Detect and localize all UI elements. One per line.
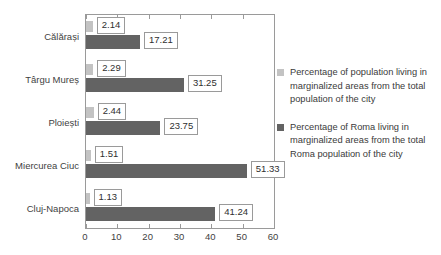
x-axis-tick-label: 10 — [111, 232, 122, 242]
y-axis-category-label: Miercurea Ciuc — [15, 161, 79, 171]
bar-roma-marginalized — [86, 121, 160, 135]
data-label-population: 2.14 — [97, 17, 126, 34]
y-axis-category-label: Ploiești — [48, 118, 79, 128]
x-axis-tick — [274, 224, 275, 228]
chart-category-row: Miercurea Ciuc1.5151.33 — [86, 144, 274, 187]
y-axis-category-label: Călărași — [44, 32, 79, 42]
chart-category-row: Târgu Mureș2.2931.25 — [86, 58, 274, 101]
data-label-roma: 23.75 — [164, 118, 198, 135]
legend-swatch-icon — [277, 69, 284, 76]
y-axis-category-label: Târgu Mureș — [25, 75, 79, 85]
x-axis-tick-label: 20 — [142, 232, 153, 242]
plot-area: Călărași2.1417.21Târgu Mureș2.2931.25Plo… — [85, 14, 275, 229]
data-label-population: 1.51 — [95, 146, 124, 163]
x-axis-tick-label: 30 — [174, 232, 185, 242]
bar-roma-marginalized — [86, 78, 184, 92]
bar-roma-marginalized — [86, 164, 247, 178]
bar-roma-marginalized — [86, 207, 215, 221]
data-label-roma: 31.25 — [188, 75, 222, 92]
data-label-population: 2.44 — [98, 103, 127, 120]
x-axis-tick-label: 0 — [82, 232, 87, 242]
bar-population-marginalized — [86, 64, 93, 75]
data-label-population: 1.13 — [94, 189, 123, 206]
data-label-population: 2.29 — [97, 60, 126, 77]
legend-label: Percentage of population living in margi… — [290, 66, 437, 107]
x-axis-tick-labels: 0102030405060 — [85, 232, 275, 246]
bar-population-marginalized — [86, 193, 90, 204]
chart-category-row: Ploiești2.4423.75 — [86, 101, 274, 144]
bar-chart: Călărași2.1417.21Târgu Mureș2.2931.25Plo… — [0, 0, 441, 255]
bar-population-marginalized — [86, 21, 93, 32]
x-axis-tick-label: 50 — [236, 232, 247, 242]
chart-category-row: Călărași2.1417.21 — [86, 15, 274, 58]
data-label-roma: 41.24 — [219, 204, 253, 221]
data-label-roma: 17.21 — [144, 32, 178, 49]
y-axis-category-label: Cluj-Napoca — [27, 204, 79, 214]
legend-label: Percentage of Roma living in marginalize… — [290, 121, 437, 162]
legend-swatch-icon — [277, 124, 284, 131]
bar-population-marginalized — [86, 150, 91, 161]
legend-entry[interactable]: Percentage of population living in margi… — [277, 66, 437, 107]
legend-entry[interactable]: Percentage of Roma living in marginalize… — [277, 121, 437, 162]
bar-population-marginalized — [86, 107, 94, 118]
x-axis-tick-label: 60 — [268, 232, 279, 242]
x-axis-tick-label: 40 — [205, 232, 216, 242]
x-axis-tick — [274, 15, 275, 19]
bar-roma-marginalized — [86, 35, 140, 49]
chart-legend: Percentage of population living in margi… — [277, 66, 437, 175]
chart-category-row: Cluj-Napoca1.1341.24 — [86, 187, 274, 230]
